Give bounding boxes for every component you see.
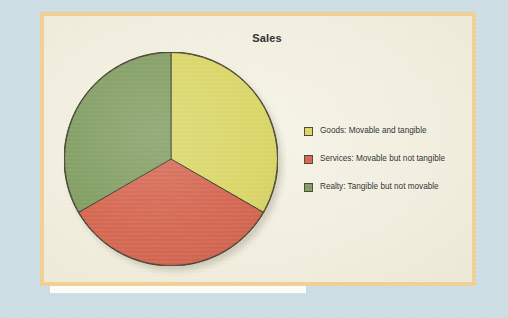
page-white-strip [50,285,306,293]
legend-swatch-goods-icon [304,127,313,136]
chart-frame: Sales [40,12,476,286]
legend-swatch-realty-icon [304,183,313,192]
legend-item-realty[interactable]: Realty: Tangible but not movable [304,182,476,192]
legend-item-goods[interactable]: Goods: Movable and tangible [304,126,476,136]
pie-outline [65,53,278,266]
pie-svg [64,52,278,266]
screenshot-root: Sales [0,0,508,318]
chart-panel: Sales [44,16,472,282]
chart-title: Sales [44,32,472,44]
chart-legend: Goods: Movable and tangible Services: Mo… [304,126,476,192]
legend-swatch-services-icon [304,155,313,164]
legend-label-realty: Realty: Tangible but not movable [320,182,439,192]
legend-label-goods: Goods: Movable and tangible [320,126,427,136]
legend-label-services: Services: Movable but not tangible [320,154,445,164]
pie-chart [64,52,278,266]
legend-item-services[interactable]: Services: Movable but not tangible [304,154,476,164]
